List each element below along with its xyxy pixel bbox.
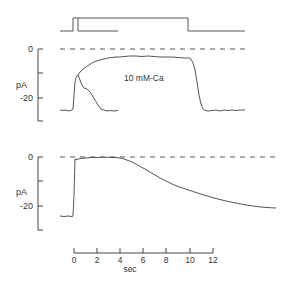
time-tick-12: 12 [208,255,218,265]
upper-long-response-trace [60,56,245,111]
time-tick-6: 6 [141,255,146,265]
upper-short-response-trace [78,75,118,111]
figure: 0 -20 pA 10 mM-Ca 0 -20 pA 0 2 4 6 8 10 … [0,0,289,285]
time-tick-8: 8 [164,255,169,265]
lower-y-axis: 0 -20 pA [16,152,43,230]
upper-tick-minus20: -20 [20,93,33,103]
time-tick-0: 0 [72,255,77,265]
concentration-annotation: 10 mM-Ca [124,73,164,83]
time-tick-2: 2 [95,255,100,265]
stimulus-trace [60,18,245,31]
time-tick-4: 4 [118,255,123,265]
upper-y-unit: pA [16,80,27,90]
lower-y-unit: pA [16,187,27,197]
time-unit-label: sec [123,264,137,274]
time-axis: 0 2 4 6 8 10 12 sec [72,248,218,274]
lower-tick-0: 0 [28,152,33,162]
lower-tick-minus20: -20 [20,201,33,211]
lower-response-trace [60,157,276,216]
time-tick-10: 10 [185,255,195,265]
upper-y-axis: 0 -20 pA [16,44,43,121]
short-pulse-trace [60,18,118,31]
upper-tick-0: 0 [28,44,33,54]
long-pulse-trace [78,18,245,31]
